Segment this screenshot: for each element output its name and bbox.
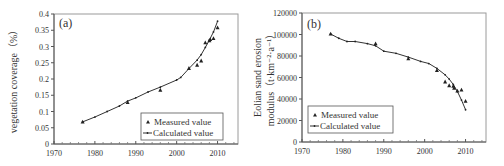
measured-value-marker xyxy=(451,84,455,88)
calculated-value-line xyxy=(83,21,218,122)
legend-measured-label: Measured value xyxy=(154,117,211,127)
y-tick-label: 0.35 xyxy=(35,26,49,35)
calculated-value-line xyxy=(331,34,466,110)
x-tick-label: 1970 xyxy=(294,147,310,156)
calculated-value-point xyxy=(383,50,385,52)
calculated-value-point xyxy=(159,86,161,88)
calculated-value-point xyxy=(338,37,340,39)
vegetation-coverage-chart: 00.050.10.150.20.250.30.350.419701980199… xyxy=(0,0,252,166)
panel-label: (b) xyxy=(307,17,321,31)
measured-value-marker xyxy=(199,59,203,63)
legend-calculated-label: Calculated value xyxy=(320,121,380,131)
legend: Measured valueCalculated value xyxy=(141,113,223,140)
y-tick-label: 0.05 xyxy=(35,124,49,133)
calculated-value-point xyxy=(204,47,206,49)
measured-value-marker xyxy=(203,40,207,44)
measured-value-marker xyxy=(464,99,468,103)
calculated-value-point xyxy=(94,116,96,118)
y-tick-label: 0.1 xyxy=(39,108,49,117)
y-tick-label: 0.3 xyxy=(39,43,49,52)
erosion-modulus-chart: 0200004000060000800001000001200001970198… xyxy=(252,0,504,166)
chart-a-svg: 00.050.10.150.20.250.30.350.419701980199… xyxy=(0,0,252,166)
y-tick-label: 40000 xyxy=(277,95,297,104)
legend-calculated-label: Calculated value xyxy=(153,128,213,138)
calculated-value-point xyxy=(135,97,137,99)
legend-measured-label: Measured value xyxy=(321,110,378,120)
y-axis-title: vegetation coverage（%） xyxy=(8,25,19,134)
y-tick-label: 0.4 xyxy=(39,10,49,19)
measured-value-marker xyxy=(374,41,378,45)
measured-value-marker xyxy=(459,88,463,92)
calculated-value-point xyxy=(147,91,149,93)
y-axis-title-line2: modulus（t·km⁻²·a⁻¹） xyxy=(265,29,276,127)
y-tick-label: 0.2 xyxy=(39,75,49,84)
calculated-value-point xyxy=(213,31,215,33)
calculated-value-point xyxy=(420,60,422,62)
x-tick-label: 1980 xyxy=(335,147,351,156)
calculated-value-point xyxy=(395,52,397,54)
calculated-value-point xyxy=(444,74,446,76)
calculated-value-point xyxy=(428,63,430,65)
y-tick-label: 120000 xyxy=(273,9,297,18)
calculated-value-point xyxy=(461,99,463,101)
legend-dot-icon xyxy=(147,132,149,134)
y-tick-label: 0.25 xyxy=(35,59,49,68)
calculated-value-point xyxy=(448,78,450,80)
calculated-value-point xyxy=(200,54,202,56)
x-tick-label: 2000 xyxy=(169,149,185,158)
calculated-value-point xyxy=(196,59,198,61)
x-tick-label: 1990 xyxy=(376,147,392,156)
calculated-value-point xyxy=(176,79,178,81)
legend: Measured valueCalculated value xyxy=(308,106,393,133)
measured-value-marker xyxy=(211,36,215,40)
legend-dot-icon xyxy=(314,125,316,127)
panel-label: (a) xyxy=(59,16,72,30)
y-tick-label: 0 xyxy=(45,140,49,149)
y-tick-label: 20000 xyxy=(277,117,297,126)
x-tick-label: 2010 xyxy=(210,149,226,158)
x-tick-label: 1970 xyxy=(46,149,62,158)
calculated-value-point xyxy=(346,41,348,43)
chart-b-svg: 0200004000060000800001000001200001970198… xyxy=(252,0,504,166)
y-tick-label: 80000 xyxy=(277,52,297,61)
measured-value-marker xyxy=(447,83,451,87)
measured-value-marker xyxy=(329,32,333,36)
x-tick-label: 2010 xyxy=(458,147,474,156)
y-tick-label: 60000 xyxy=(277,74,297,83)
x-tick-label: 2000 xyxy=(417,147,433,156)
y-axis-title-line1: Eolian sand erosion xyxy=(252,38,263,117)
measured-value-marker xyxy=(435,68,439,72)
calculated-value-point xyxy=(354,41,356,43)
calculated-value-point xyxy=(180,76,182,78)
x-tick-label: 1990 xyxy=(128,149,144,158)
y-tick-label: 0 xyxy=(293,138,297,147)
x-tick-label: 1980 xyxy=(87,149,103,158)
measured-value-marker xyxy=(195,63,199,67)
measured-value-marker xyxy=(208,37,212,41)
y-tick-label: 0.15 xyxy=(35,91,49,100)
measured-value-marker xyxy=(443,80,447,84)
calculated-value-point xyxy=(217,20,219,22)
calculated-value-point xyxy=(367,43,369,45)
y-tick-label: 100000 xyxy=(273,31,297,40)
calculated-value-point xyxy=(119,105,121,107)
calculated-value-point xyxy=(106,111,108,113)
calculated-value-point xyxy=(465,109,467,111)
measured-value-marker xyxy=(158,88,162,92)
